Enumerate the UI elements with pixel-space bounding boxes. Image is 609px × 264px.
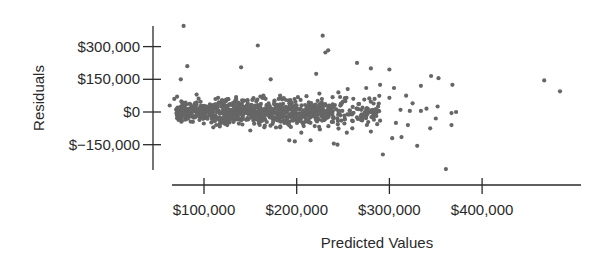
data-point (175, 107, 179, 111)
data-point (255, 103, 259, 107)
data-point (392, 86, 396, 90)
data-point (355, 107, 359, 111)
data-point (288, 98, 292, 102)
data-point (183, 114, 187, 118)
data-point (182, 24, 186, 28)
data-point (394, 121, 398, 125)
data-point (366, 110, 370, 114)
data-point (450, 83, 454, 87)
data-point (285, 108, 289, 112)
data-point (195, 93, 199, 97)
data-point (256, 43, 260, 47)
data-point (323, 117, 327, 121)
data-point (342, 113, 346, 117)
data-point (317, 92, 321, 96)
data-point (189, 102, 193, 106)
data-point (331, 95, 335, 99)
data-point (261, 94, 265, 98)
data-point (351, 97, 355, 101)
data-point (346, 87, 350, 91)
data-point (287, 123, 291, 127)
data-point (279, 104, 283, 108)
data-point (211, 119, 215, 123)
data-point (449, 111, 453, 115)
x-tick-label: $200,000 (265, 201, 328, 218)
data-point (318, 127, 322, 131)
data-point (251, 113, 255, 117)
data-point (220, 98, 224, 102)
data-point (193, 115, 197, 119)
data-point (335, 143, 339, 147)
data-point (293, 100, 297, 104)
x-tick-label: $400,000 (451, 201, 514, 218)
data-point (378, 83, 382, 87)
data-point (360, 106, 364, 110)
x-tick-label: $300,000 (358, 201, 421, 218)
data-point (196, 108, 200, 112)
data-point (246, 106, 250, 110)
data-point (331, 115, 335, 119)
data-point (179, 116, 183, 120)
data-point (180, 104, 184, 108)
data-point (250, 98, 254, 102)
data-point (345, 131, 349, 135)
data-point (350, 112, 354, 116)
data-point (369, 66, 373, 70)
data-point (274, 125, 278, 129)
data-point (187, 111, 191, 115)
data-point (199, 100, 203, 104)
data-point (203, 108, 207, 112)
data-point (366, 120, 370, 124)
data-point (313, 124, 317, 128)
data-point (238, 110, 242, 114)
data-point (223, 116, 227, 120)
y-tick-label: $−150,000 (69, 136, 140, 153)
data-point (211, 103, 215, 107)
data-point (257, 121, 261, 125)
data-point (189, 107, 193, 111)
data-point (303, 108, 307, 112)
data-point (316, 99, 320, 103)
data-point (325, 109, 329, 113)
data-point (306, 112, 310, 116)
data-point (336, 90, 340, 94)
data-point (355, 61, 359, 65)
data-point (315, 115, 319, 119)
data-point (199, 113, 203, 117)
data-point (332, 105, 336, 109)
data-point (266, 110, 270, 114)
data-point (271, 120, 275, 124)
data-point (332, 142, 336, 146)
data-point (306, 118, 310, 122)
data-point (306, 105, 310, 109)
data-point (179, 77, 183, 81)
data-point (294, 105, 298, 109)
data-point (317, 104, 321, 108)
data-point (246, 98, 250, 102)
data-point (309, 138, 313, 142)
data-point (299, 106, 303, 110)
x-axis-ticks: $100,000$200,000$300,000$400,000 (173, 178, 514, 218)
data-point (338, 95, 342, 99)
data-point (233, 114, 237, 118)
data-point (436, 104, 440, 108)
data-point (362, 98, 366, 102)
data-point (373, 113, 377, 117)
data-point (276, 108, 280, 112)
data-point (365, 106, 369, 110)
data-point (231, 120, 235, 124)
data-point (326, 124, 330, 128)
data-point (255, 98, 259, 102)
data-point (411, 101, 415, 105)
data-point (404, 94, 408, 98)
data-point (301, 122, 305, 126)
data-point (257, 111, 261, 115)
data-point (424, 107, 428, 111)
data-point (387, 96, 391, 100)
data-point (390, 136, 394, 140)
data-point (225, 123, 229, 127)
data-point (265, 120, 269, 124)
data-point (326, 48, 330, 52)
data-point (377, 94, 381, 98)
data-point (211, 113, 215, 117)
